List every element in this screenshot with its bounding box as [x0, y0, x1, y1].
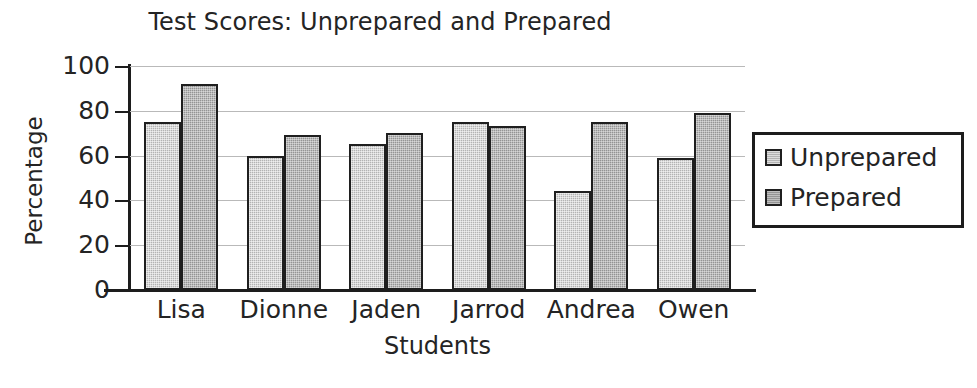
- bar: [554, 191, 591, 290]
- x-axis-category-label: Andrea: [540, 296, 643, 324]
- x-axis-category-label: Owen: [643, 296, 746, 324]
- x-axis-category-label: Jaden: [335, 296, 438, 324]
- bar: [452, 122, 489, 290]
- legend-swatch-unprepared-icon: [765, 149, 782, 166]
- bar: [657, 158, 694, 290]
- y-axis-tick: [115, 111, 129, 113]
- x-axis-category-label: Lisa: [130, 296, 233, 324]
- bar-group: [554, 66, 628, 290]
- chart-title: Test Scores: Unprepared and Prepared: [0, 8, 760, 36]
- plot-area: [130, 66, 745, 290]
- y-axis-title: Percentage: [21, 101, 47, 261]
- bar: [591, 122, 628, 290]
- y-axis-tick-label: 40: [50, 187, 110, 212]
- y-axis-tick-label: 20: [50, 232, 110, 257]
- legend-label-unprepared: Unprepared: [790, 144, 937, 171]
- bar-group: [452, 66, 526, 290]
- bar: [181, 84, 218, 290]
- y-axis-tick-label: 60: [50, 143, 110, 168]
- bar-group: [144, 66, 218, 290]
- bar: [144, 122, 181, 290]
- gridline: [130, 66, 745, 67]
- legend-label-prepared: Prepared: [790, 184, 902, 211]
- y-axis-tick-label: 80: [50, 98, 110, 123]
- x-axis-category-label: Dionne: [233, 296, 336, 324]
- y-axis-tick: [115, 156, 129, 158]
- y-axis-tick: [115, 66, 129, 68]
- legend-item-unprepared: Unprepared: [765, 144, 937, 171]
- bar: [284, 135, 321, 290]
- bar-group: [657, 66, 731, 290]
- bar: [386, 133, 423, 290]
- y-axis-tick-labels: 020406080100: [48, 0, 110, 388]
- y-axis-tick-label: 100: [50, 53, 110, 78]
- x-axis-category-label: Jarrod: [438, 296, 541, 324]
- gridline: [130, 111, 745, 112]
- y-axis-tick-label: 0: [50, 277, 110, 302]
- bar: [489, 126, 526, 290]
- y-axis-tick: [115, 200, 129, 202]
- bar: [694, 113, 731, 290]
- legend-item-prepared: Prepared: [765, 184, 902, 211]
- legend: Unprepared Prepared: [752, 132, 964, 228]
- y-axis-tick: [115, 290, 129, 292]
- gridline: [130, 200, 745, 201]
- bar: [349, 144, 386, 290]
- x-axis-title: Students: [130, 332, 745, 360]
- bar-chart: Test Scores: Unprepared and Prepared 020…: [0, 0, 977, 388]
- legend-swatch-prepared-icon: [765, 189, 782, 206]
- bar-group: [247, 66, 321, 290]
- gridline: [130, 156, 745, 157]
- y-axis-tick: [115, 245, 129, 247]
- bar-group: [349, 66, 423, 290]
- gridline: [130, 245, 745, 246]
- bar: [247, 156, 284, 290]
